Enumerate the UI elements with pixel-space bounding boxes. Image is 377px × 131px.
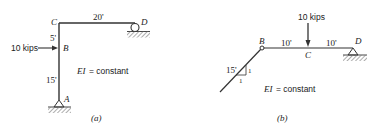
figure-a: 10 kips C B A D 20' 5' 15' EI = constant… bbox=[11, 12, 150, 123]
ei-constant-text-a: = constant bbox=[89, 66, 129, 76]
node-label-a-a: A bbox=[63, 94, 70, 104]
slope-run: 1 bbox=[239, 77, 243, 85]
dimension-bc: 10' bbox=[281, 38, 292, 48]
hinge-b-icon bbox=[260, 46, 264, 50]
dimension-ab: 15' bbox=[226, 65, 237, 75]
node-label-c-b: C bbox=[305, 50, 312, 60]
slope-rise: 1 bbox=[248, 67, 252, 75]
load-label-b: 10 kips bbox=[298, 12, 325, 22]
dimension-cd: 20' bbox=[93, 12, 104, 22]
svg-text:EI: EI bbox=[263, 84, 273, 94]
node-label-b-b: B bbox=[259, 36, 265, 46]
node-label-d-a: D bbox=[140, 17, 148, 27]
pin-support-d-icon bbox=[343, 48, 367, 61]
load-arrow-down-icon bbox=[306, 23, 311, 47]
caption-b: (b) bbox=[277, 113, 288, 123]
load-arrow-right-icon bbox=[38, 46, 58, 51]
ei-constant-a: EI = constant bbox=[76, 66, 129, 76]
figure-b: 1 1 10 kips B C D 15' 10' 10' EI = const… bbox=[220, 12, 367, 123]
svg-text:EI: EI bbox=[76, 66, 86, 76]
node-label-b-a: B bbox=[63, 43, 69, 53]
dimension-cd-b: 10' bbox=[326, 38, 337, 48]
node-label-d-b: D bbox=[354, 36, 362, 46]
dimension-cb: 5' bbox=[50, 33, 57, 43]
structural-diagram: 10 kips C B A D 20' 5' 15' EI = constant… bbox=[0, 0, 377, 131]
load-label-a: 10 kips bbox=[11, 43, 38, 53]
dimension-ba: 15' bbox=[46, 75, 57, 85]
ei-constant-text-b: = constant bbox=[276, 84, 316, 94]
ei-constant-b: EI = constant bbox=[263, 84, 316, 94]
caption-a: (a) bbox=[91, 113, 102, 123]
node-label-c-a: C bbox=[51, 17, 58, 27]
